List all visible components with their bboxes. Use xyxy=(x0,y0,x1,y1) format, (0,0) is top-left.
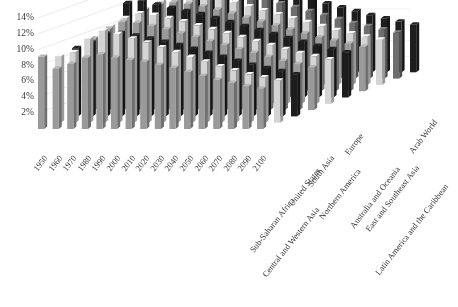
y-axis-tick-label: 14% xyxy=(0,12,34,22)
y-axis-tick-label: 10% xyxy=(0,44,34,54)
y-axis-tick-label: 6% xyxy=(0,75,34,85)
chart-figure: 2%4%6%8%10%12%14%19501960197019801990200… xyxy=(0,0,458,307)
y-axis-tick-label: 2% xyxy=(0,107,34,117)
y-axis-tick-label: 4% xyxy=(0,91,34,101)
y-axis-tick-label: 12% xyxy=(0,28,34,38)
y-axis-tick-label: 8% xyxy=(0,60,34,70)
